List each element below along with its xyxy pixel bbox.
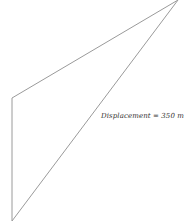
- path-segment-diagonal-up: [12, 0, 178, 98]
- displacement-line: [12, 0, 178, 221]
- displacement-label: Displacement = 350 m: [101, 112, 184, 120]
